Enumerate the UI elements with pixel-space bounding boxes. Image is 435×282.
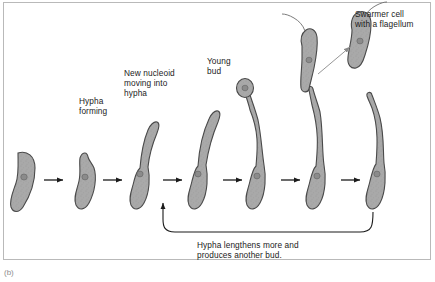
panel-letter: (b) <box>4 268 14 277</box>
swarmer-release-pointer-arrow <box>318 47 350 74</box>
label-swarmer-cell: Swarmer cell with a flagellum <box>355 9 414 29</box>
nucleoid <box>82 174 88 180</box>
cell-body-with-hypha <box>306 86 325 208</box>
label-feedback-caption: Hypha lengthens more and produces anothe… <box>197 240 299 260</box>
stage-5-young-bud <box>237 79 266 209</box>
stage-1-vegetative-cell <box>10 152 35 211</box>
swarmer-nucleoid <box>357 38 363 44</box>
cell-body-with-hypha <box>246 92 265 208</box>
stage-2-hypha-initiation <box>75 153 95 209</box>
stage-4-nucleoid-moving-into-hypha <box>188 111 220 209</box>
cell-body-with-hypha <box>366 92 385 208</box>
flagellum <box>282 14 305 31</box>
bud-nucleoid <box>242 85 248 91</box>
cell-body <box>10 152 35 211</box>
cell-body-with-hypha <box>130 122 159 209</box>
cell-body-with-hypha <box>188 111 220 209</box>
nucleoid <box>195 171 201 177</box>
stage-7-post-release-mother-cell <box>366 92 385 208</box>
nucleoid <box>314 173 320 179</box>
cell-body <box>75 153 95 209</box>
nucleoid <box>137 171 143 177</box>
label-new-nucleoid: New nucleoid moving into hypha <box>124 68 175 99</box>
label-hypha-forming: Hypha forming <box>79 96 107 116</box>
label-young-bud: Young bud <box>207 56 231 76</box>
nucleoid <box>254 173 260 179</box>
stage-3-hypha-forming <box>130 122 159 209</box>
figure-root: Hypha forming New nucleoid moving into h… <box>0 0 435 282</box>
nucleoid <box>374 171 380 177</box>
swarmer-nucleoid <box>306 57 312 63</box>
nucleoid <box>21 174 27 180</box>
